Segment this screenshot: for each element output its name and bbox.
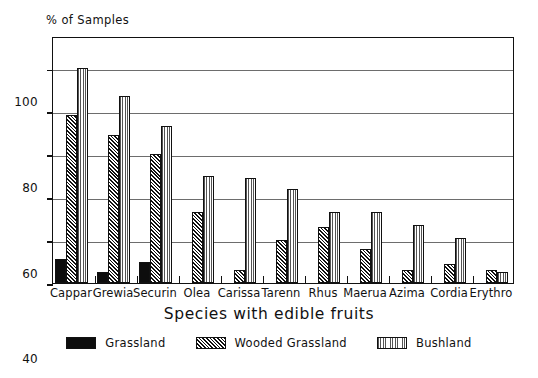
legend-label: Wooded Grassland xyxy=(235,336,347,350)
x-axis-title: Species with edible fruits xyxy=(0,305,538,323)
legend-item: Bushland xyxy=(377,336,472,350)
bars-layer xyxy=(53,38,513,283)
bar xyxy=(108,135,119,283)
x-axis-tick-label: Cappar xyxy=(50,286,92,300)
bar xyxy=(360,249,371,283)
x-axis-tick xyxy=(263,276,264,283)
bar-group xyxy=(263,38,305,283)
bar-group xyxy=(95,38,137,283)
bar xyxy=(161,126,172,283)
x-axis-tick-label: Erythro xyxy=(470,286,513,300)
bar-group xyxy=(305,38,347,283)
legend-item: Grassland xyxy=(66,336,165,350)
bar xyxy=(150,154,161,283)
x-axis-tick xyxy=(347,276,348,283)
x-axis-tick xyxy=(221,276,222,283)
bar xyxy=(192,212,203,283)
bar-group xyxy=(221,38,263,283)
x-axis-tick xyxy=(473,276,474,283)
x-axis-tick-label: Olea xyxy=(184,286,211,300)
bar xyxy=(66,115,77,283)
plot-area: 020406080100 xyxy=(52,37,514,284)
bar-group xyxy=(179,38,221,283)
x-axis-tick xyxy=(431,276,432,283)
bar xyxy=(203,176,214,283)
x-axis-tick-label: Cordia xyxy=(430,286,468,300)
bar xyxy=(245,178,256,283)
legend-label: Grassland xyxy=(105,336,165,350)
legend-swatch-grassland xyxy=(66,337,96,349)
bar xyxy=(318,227,329,283)
bar xyxy=(119,96,130,283)
y-axis-tick-label: 60 xyxy=(22,267,38,281)
bar xyxy=(413,225,424,283)
y-axis-tick-label: 100 xyxy=(14,95,38,109)
bar-group xyxy=(53,38,95,283)
bar-chart: % of Samples 020406080100 CapparGrewiaSe… xyxy=(0,0,538,378)
y-axis-title: % of Samples xyxy=(46,13,129,27)
legend-swatch-bushland xyxy=(377,337,407,349)
bar xyxy=(97,272,108,283)
x-axis-tick-label: Carissa xyxy=(218,286,261,300)
bar-group xyxy=(137,38,179,283)
bar xyxy=(287,189,298,284)
bar xyxy=(139,262,150,283)
chart-legend: GrasslandWooded GrasslandBushland xyxy=(0,336,538,350)
y-axis-tick-label: 40 xyxy=(22,352,38,366)
bar xyxy=(497,272,508,283)
x-axis-tick xyxy=(137,276,138,283)
x-axis-tick-label: Grewia xyxy=(93,286,134,300)
bar-group xyxy=(389,38,431,283)
bar-group xyxy=(473,38,515,283)
x-axis-tick xyxy=(179,276,180,283)
x-axis-tick-labels: CapparGrewiaSecurinOleaCarissaTarennRhus… xyxy=(52,286,514,304)
bar xyxy=(444,264,455,283)
x-axis-tick-label: Rhus xyxy=(309,286,338,300)
bar xyxy=(276,240,287,283)
x-axis-tick-label: Tarenn xyxy=(262,286,301,300)
legend-swatch-wooded-grassland xyxy=(196,337,226,349)
x-axis-tick xyxy=(95,276,96,283)
bar xyxy=(486,270,497,283)
bar xyxy=(455,238,466,283)
bar xyxy=(329,212,340,283)
x-axis-tick-label: Maerua xyxy=(343,286,387,300)
bar xyxy=(371,212,382,283)
x-axis-tick-label: Securin xyxy=(133,286,177,300)
bar xyxy=(402,270,413,283)
y-axis-tick-label: 80 xyxy=(22,181,38,195)
legend-label: Bushland xyxy=(416,336,472,350)
bar-group xyxy=(347,38,389,283)
bar xyxy=(234,270,245,283)
x-axis-tick xyxy=(305,276,306,283)
x-axis-tick-label: Azima xyxy=(389,286,425,300)
bar xyxy=(77,68,88,283)
bar-group xyxy=(431,38,473,283)
bar xyxy=(55,259,66,283)
legend-item: Wooded Grassland xyxy=(196,336,347,350)
x-axis-tick xyxy=(389,276,390,283)
